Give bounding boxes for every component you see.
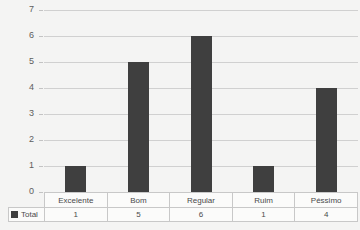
bar xyxy=(316,88,337,192)
table-header-cell: Ruim xyxy=(232,192,295,207)
data-table: Excelente Bom Regular Ruim Péssimo Total… xyxy=(8,192,358,222)
table-value-cell: 5 xyxy=(107,207,170,222)
bar xyxy=(253,166,274,192)
bar xyxy=(128,62,149,192)
y-axis-tick xyxy=(39,36,43,37)
table-value-row: Total 1 5 6 1 4 xyxy=(8,207,358,222)
y-axis-label: 3 xyxy=(4,109,34,118)
table-header-cell: Excelente xyxy=(44,192,107,207)
y-axis-tick xyxy=(39,88,43,89)
y-axis-label: 1 xyxy=(4,161,34,170)
legend-swatch-icon xyxy=(11,211,18,218)
gridline xyxy=(44,10,358,11)
y-axis-tick xyxy=(39,62,43,63)
y-axis-tick xyxy=(39,140,43,141)
legend-entry-total: Total xyxy=(8,207,44,222)
bar xyxy=(191,36,212,192)
y-axis-label: 4 xyxy=(4,83,34,92)
y-axis-label: 6 xyxy=(4,31,34,40)
y-axis-tick xyxy=(39,166,43,167)
table-header-cell: Bom xyxy=(107,192,170,207)
legend-label: Total xyxy=(21,210,38,219)
table-header-cell: Regular xyxy=(169,192,232,207)
y-axis-label: 5 xyxy=(4,57,34,66)
bar xyxy=(65,166,86,192)
table-value-cell: 4 xyxy=(294,207,358,222)
table-header-row: Excelente Bom Regular Ruim Péssimo xyxy=(8,192,358,207)
table-value-cell: 1 xyxy=(44,207,107,222)
y-axis-label: 2 xyxy=(4,135,34,144)
plot-area: 01234567 xyxy=(44,10,358,192)
y-axis-label: 7 xyxy=(4,5,34,14)
table-value-cell: 1 xyxy=(232,207,295,222)
table-value-cell: 6 xyxy=(169,207,232,222)
y-axis-tick xyxy=(39,10,43,11)
y-axis-tick xyxy=(39,114,43,115)
legend-spacer xyxy=(8,192,44,207)
chart-screenshot: 01234567 Excelente Bom Regular Ruim Péss… xyxy=(0,0,360,230)
table-header-cell: Péssimo xyxy=(294,192,358,207)
